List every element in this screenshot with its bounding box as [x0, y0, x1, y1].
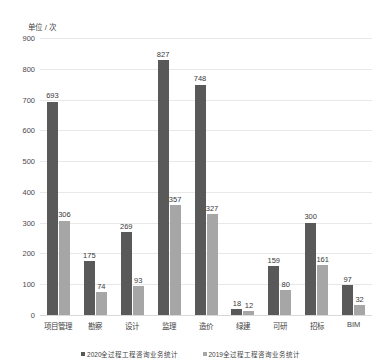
x-axis-category: 造价 — [188, 320, 225, 331]
y-axis-tick: 400 — [0, 187, 35, 196]
bar-value-label: 80 — [282, 281, 290, 289]
bar-value-label: 300 — [304, 213, 317, 221]
x-axis-category: 招标 — [298, 320, 335, 331]
bar-value-label: 827 — [157, 51, 170, 59]
bar-value-label: 32 — [355, 296, 363, 304]
bar-value-label: 12 — [245, 302, 253, 310]
bar-wrapper: 80 — [280, 38, 291, 315]
x-axis-category: 项目管理 — [40, 320, 77, 331]
x-axis-category: BIM — [335, 320, 372, 331]
bar[interactable] — [133, 286, 144, 315]
chart-legend: 2020全过程工程咨询业务统计2019全过程工程咨询业务统计 — [0, 349, 381, 359]
bar-wrapper: 357 — [170, 38, 181, 315]
bar-wrapper: 159 — [268, 38, 279, 315]
y-axis-title: 单位 / 次 — [28, 21, 56, 32]
bar-value-label: 306 — [58, 211, 71, 219]
y-axis-tick: 700 — [0, 95, 35, 104]
x-axis-category-labels: 项目管理勘察设计监理造价绿建可研招标BIM — [40, 320, 372, 331]
bar-wrapper: 175 — [84, 38, 95, 315]
bar-value-label: 74 — [97, 283, 105, 291]
x-axis-category: 绿建 — [224, 320, 261, 331]
bar-wrapper: 18 — [231, 38, 242, 315]
legend-item[interactable]: 2020全过程工程咨询业务统计 — [81, 349, 178, 359]
y-axis-tick: 600 — [0, 126, 35, 135]
bar[interactable] — [170, 205, 181, 315]
legend-swatch-icon — [203, 352, 207, 356]
bar-chart: 单位 / 次 693306175742699382735774832718121… — [0, 0, 381, 363]
bar-value-label: 693 — [46, 92, 59, 100]
bar-group: 693306 — [40, 38, 77, 315]
bar-wrapper: 748 — [195, 38, 206, 315]
bar[interactable] — [96, 292, 107, 315]
bar-value-label: 748 — [194, 75, 207, 83]
bar-group: 748327 — [188, 38, 225, 315]
bar-value-label: 93 — [134, 277, 142, 285]
bar-value-label: 97 — [343, 276, 351, 284]
bar-value-label: 175 — [83, 252, 96, 260]
bar-value-label: 18 — [233, 300, 241, 308]
y-axis-tick: 500 — [0, 157, 35, 166]
bar-value-label: 161 — [316, 256, 329, 264]
bar-wrapper: 74 — [96, 38, 107, 315]
y-axis-tick: 200 — [0, 249, 35, 258]
gridline — [40, 315, 372, 316]
bar-group: 1812 — [224, 38, 261, 315]
x-axis-category: 可研 — [261, 320, 298, 331]
bar[interactable] — [280, 290, 291, 315]
bar[interactable] — [305, 223, 316, 315]
bar[interactable] — [243, 311, 254, 315]
y-axis-tick: 0 — [0, 311, 35, 320]
bar-value-label: 269 — [120, 223, 133, 231]
bar-group: 827357 — [151, 38, 188, 315]
x-axis-category: 勘察 — [77, 320, 114, 331]
bar-wrapper: 32 — [354, 38, 365, 315]
bar[interactable] — [207, 214, 218, 315]
bar-wrapper: 93 — [133, 38, 144, 315]
legend-label: 2020全过程工程咨询业务统计 — [87, 349, 178, 359]
bar-group: 17574 — [77, 38, 114, 315]
y-axis-tick: 100 — [0, 280, 35, 289]
y-axis-tick: 900 — [0, 34, 35, 43]
bar-value-label: 159 — [268, 257, 281, 265]
bar-wrapper: 269 — [121, 38, 132, 315]
bar[interactable] — [47, 102, 58, 315]
bar[interactable] — [268, 266, 279, 315]
bar[interactable] — [158, 60, 169, 315]
plot-area: 6933061757426993827357748327181215980300… — [40, 38, 372, 315]
bar-wrapper: 12 — [243, 38, 254, 315]
bar-wrapper: 300 — [305, 38, 316, 315]
bar[interactable] — [121, 232, 132, 315]
bar[interactable] — [195, 85, 206, 315]
y-axis-tick: 300 — [0, 218, 35, 227]
bar[interactable] — [354, 305, 365, 315]
bar-wrapper: 327 — [207, 38, 218, 315]
bar-groups: 6933061757426993827357748327181215980300… — [40, 38, 372, 315]
bar-wrapper: 827 — [158, 38, 169, 315]
bar-wrapper: 693 — [47, 38, 58, 315]
y-axis-tick: 800 — [0, 64, 35, 73]
bar[interactable] — [231, 309, 242, 315]
bar-wrapper: 161 — [317, 38, 328, 315]
bar[interactable] — [317, 265, 328, 315]
bar-group: 15980 — [261, 38, 298, 315]
bar-group: 300161 — [298, 38, 335, 315]
bar[interactable] — [342, 285, 353, 315]
bar-group: 26993 — [114, 38, 151, 315]
bar-group: 9732 — [335, 38, 372, 315]
bar[interactable] — [84, 261, 95, 315]
bar-value-label: 327 — [206, 205, 219, 213]
x-axis-category: 监理 — [151, 320, 188, 331]
bar-wrapper: 97 — [342, 38, 353, 315]
legend-swatch-icon — [81, 352, 85, 356]
bar-value-label: 357 — [169, 196, 182, 204]
x-axis-category: 设计 — [114, 320, 151, 331]
bar[interactable] — [59, 221, 70, 315]
legend-item[interactable]: 2019全过程工程咨询业务统计 — [203, 349, 300, 359]
bar-wrapper: 306 — [59, 38, 70, 315]
legend-label: 2019全过程工程咨询业务统计 — [209, 349, 300, 359]
